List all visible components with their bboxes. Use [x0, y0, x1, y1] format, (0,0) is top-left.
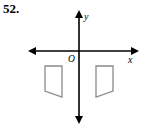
figure-container: 52. y x O: [0, 0, 146, 128]
axis-labels-group: y x O: [68, 11, 133, 65]
coordinate-plane-graphic: y x O: [0, 0, 146, 128]
y-axis-arrow-down-icon: [75, 116, 83, 124]
origin-label: O: [68, 54, 75, 64]
x-axis-arrow-left-icon: [28, 47, 36, 55]
x-axis-label: x: [127, 54, 133, 65]
y-axis-label: y: [83, 11, 89, 22]
left-quadrilateral: [45, 66, 62, 97]
right-quadrilateral: [96, 66, 113, 97]
y-axis-arrow-up-icon: [75, 10, 83, 18]
